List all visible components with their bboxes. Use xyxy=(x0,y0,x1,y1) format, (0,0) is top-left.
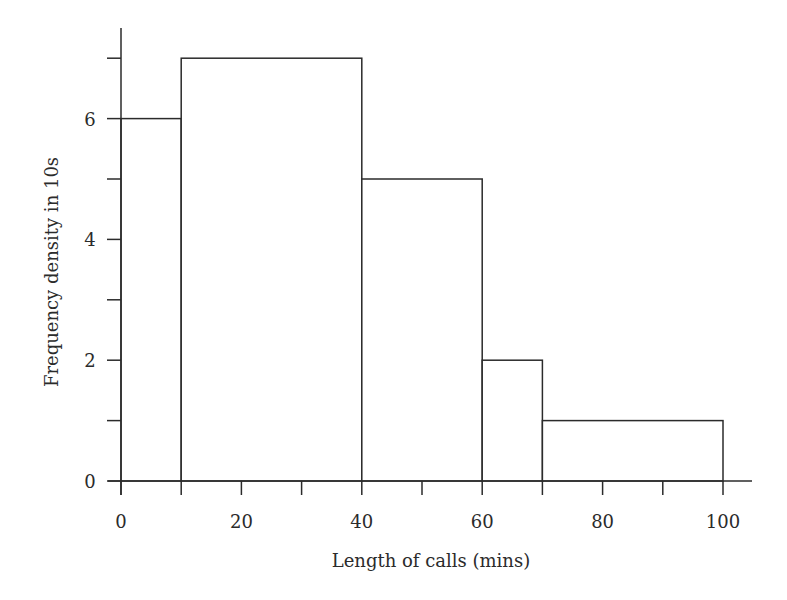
y-axis-title: Frequency density in 10s xyxy=(41,157,62,387)
histogram-bars xyxy=(121,58,723,481)
x-tick-label: 60 xyxy=(471,511,494,532)
x-tick-label: 0 xyxy=(115,511,126,532)
y-axis-ticks: 0246 xyxy=(84,58,121,492)
x-tick-label: 80 xyxy=(591,511,614,532)
x-axis-ticks: 020406080100 xyxy=(115,481,740,532)
y-tick-label: 2 xyxy=(84,350,95,371)
histogram-bar xyxy=(362,179,482,481)
histogram-chart: 020406080100 0246 Length of calls (mins)… xyxy=(0,0,787,600)
histogram-bar xyxy=(482,360,542,481)
x-tick-label: 40 xyxy=(350,511,373,532)
y-tick-label: 6 xyxy=(84,109,95,130)
x-axis-title: Length of calls (mins) xyxy=(332,550,530,571)
histogram-bar xyxy=(542,421,723,481)
histogram-bar xyxy=(181,58,362,481)
y-tick-label: 0 xyxy=(84,471,95,492)
histogram-bar xyxy=(121,119,181,481)
y-tick-label: 4 xyxy=(84,229,95,250)
x-tick-label: 100 xyxy=(706,511,740,532)
x-tick-label: 20 xyxy=(230,511,253,532)
